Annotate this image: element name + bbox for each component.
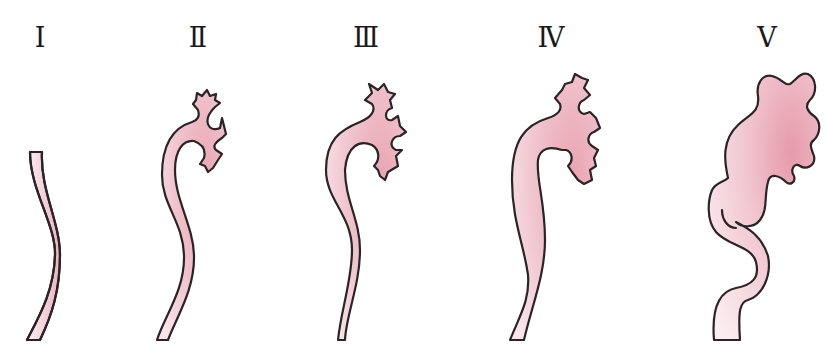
grade-3-ureter-pelvis — [326, 84, 406, 340]
grade-2-ureter-pelvis — [157, 90, 226, 340]
grade-4-ureter-pelvis — [510, 74, 600, 340]
grade-5-ureter-pelvis — [709, 74, 820, 340]
reflux-grade-diagram: Ⅰ Ⅱ Ⅲ Ⅳ Ⅴ — [0, 0, 826, 349]
grade-1-ureter — [27, 152, 60, 340]
